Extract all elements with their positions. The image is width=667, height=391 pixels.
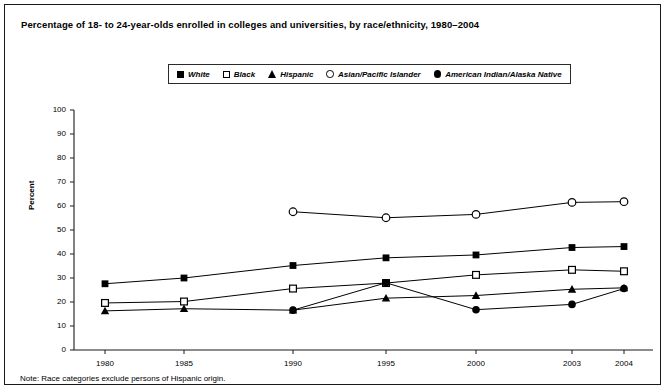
- y-axis-tick-label: 10: [40, 322, 66, 330]
- y-axis-tick-label: 50: [40, 226, 66, 234]
- chart-plot-area: [5, 5, 662, 386]
- y-axis-tick-label: 80: [40, 154, 66, 162]
- y-axis-tick-label: 30: [40, 274, 66, 282]
- x-axis-tick-label: 1980: [85, 360, 125, 368]
- y-axis-tick-label: 40: [40, 250, 66, 258]
- x-axis-tick-label: 2000: [456, 360, 496, 368]
- y-axis-tick-label: 70: [40, 178, 66, 186]
- line-chart-svg: [5, 5, 662, 386]
- figure-panel: Percentage of 18- to 24-year-olds enroll…: [4, 4, 661, 385]
- y-axis-tick-label: 0: [40, 346, 66, 354]
- y-axis-tick-label: 60: [40, 202, 66, 210]
- chart-note: Note: Race categories exclude persons of…: [20, 374, 225, 384]
- x-axis-tick-label: 1995: [366, 360, 406, 368]
- y-axis-tick-label: 20: [40, 298, 66, 306]
- x-axis-tick-label: 1990: [273, 360, 313, 368]
- y-axis-tick-label: 90: [40, 130, 66, 138]
- x-axis-tick-label: 2003: [552, 360, 592, 368]
- x-axis-tick-label: 2004: [604, 360, 644, 368]
- x-axis-tick-label: 1985: [164, 360, 204, 368]
- y-axis-tick-label: 100: [40, 106, 66, 114]
